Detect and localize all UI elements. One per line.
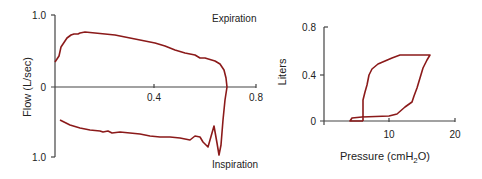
right-y-tick-04: 0.4 bbox=[302, 70, 316, 81]
inspiration-label: Inspiration bbox=[212, 159, 258, 170]
pressure-volume-loop bbox=[350, 55, 430, 121]
right-y-tick-08: 0.8 bbox=[302, 22, 316, 33]
left-x-tick-08: 0.8 bbox=[249, 92, 263, 103]
right-y-tick-0: 0 bbox=[310, 116, 316, 127]
left-x-tick-04: 0.4 bbox=[147, 92, 161, 103]
right-x-label: Pressure (cmH2O) bbox=[340, 150, 430, 165]
flow-volume-chart: 1.0 0 1.0 0.4 0.8 Flow (L/sec) Expiratio… bbox=[21, 10, 263, 170]
left-y-label: Flow (L/sec) bbox=[21, 57, 33, 117]
right-x-tick-20: 20 bbox=[449, 129, 461, 140]
expiration-label: Expiration bbox=[212, 13, 256, 24]
pressure-volume-chart: 0.8 0.4 0 10 20 Liters Pressure (cmH2O) bbox=[276, 22, 461, 165]
left-y-tick-bottom: 1.0 bbox=[32, 152, 46, 163]
left-y-tick-top: 1.0 bbox=[32, 10, 46, 21]
figure: 1.0 0 1.0 0.4 0.8 Flow (L/sec) Expiratio… bbox=[0, 0, 482, 179]
right-x-tick-10: 10 bbox=[383, 129, 395, 140]
right-y-label: Liters bbox=[276, 58, 288, 85]
left-y-tick-zero: 0 bbox=[40, 82, 46, 93]
expiration-curve bbox=[55, 32, 227, 87]
inspiration-curve bbox=[60, 87, 227, 155]
